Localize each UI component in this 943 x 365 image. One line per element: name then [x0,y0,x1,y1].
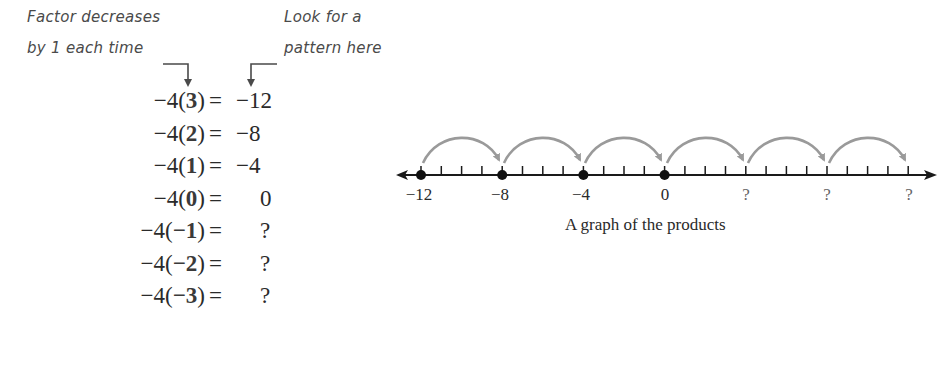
jump-arrow-icon [585,138,661,163]
jump-arrow-icon [667,138,743,163]
tick-label: ? [742,185,750,204]
jump-arcs [423,138,905,163]
tick-label: 0 [661,185,670,204]
tick-label: −8 [491,185,509,204]
point-dot [416,170,426,180]
tick-label: −4 [572,185,591,204]
number-line-caption: A graph of the products [565,215,726,235]
point-dot [578,170,588,180]
number-line: −12 −8 −4 0 ? ? ? [0,0,943,365]
tick-label: −12 [406,185,433,204]
jump-arrow-icon [748,138,824,163]
jump-arrow-icon [423,138,499,163]
point-dot [497,170,507,180]
tick-label: ? [905,185,913,204]
jump-arrow-icon [504,138,580,163]
jump-arrow-icon [829,138,905,163]
point-dot [660,170,670,180]
tick-label: ? [823,185,831,204]
